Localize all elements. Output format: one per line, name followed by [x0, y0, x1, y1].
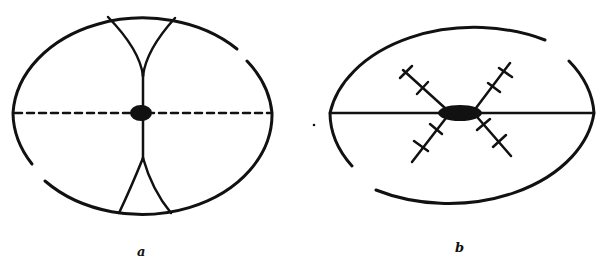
cell-outline-a-lower [45, 61, 272, 214]
spindle-curve-a-upper-left [108, 17, 143, 76]
central-body-b [438, 105, 482, 121]
cell-outline-a-upper [13, 18, 237, 164]
figure-canvas [0, 0, 604, 270]
panel-label-a: a [137, 244, 145, 259]
spindle-curve-a-lower-right [143, 158, 171, 213]
spindle-curve-a-upper-right [143, 18, 175, 76]
stray-dot [313, 124, 316, 127]
panel-a [13, 17, 272, 214]
cell-outline-b-upper [330, 27, 545, 166]
central-body-a [130, 105, 152, 121]
panel-label-b: b [455, 240, 464, 255]
ray-b-upper-left [403, 70, 445, 108]
cell-outline-b-lower [376, 61, 594, 203]
panel-b [313, 27, 594, 203]
spindle-curve-a-lower-left [119, 158, 143, 213]
